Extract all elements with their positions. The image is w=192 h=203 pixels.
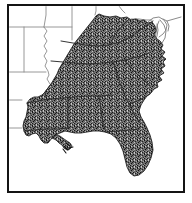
shaded-region-southeast [23,14,166,176]
state-outline-atlantic-top [167,17,181,21]
map-figure: Southeastern United States Shaded relief… [0,0,192,203]
state-outline-indiana-ohio [95,6,96,15]
state-outline-mississippi-river [44,27,50,84]
state-outline-illinois-west [44,6,46,27]
map-graphic [0,0,192,203]
state-outline-ohio-east [119,6,125,13]
